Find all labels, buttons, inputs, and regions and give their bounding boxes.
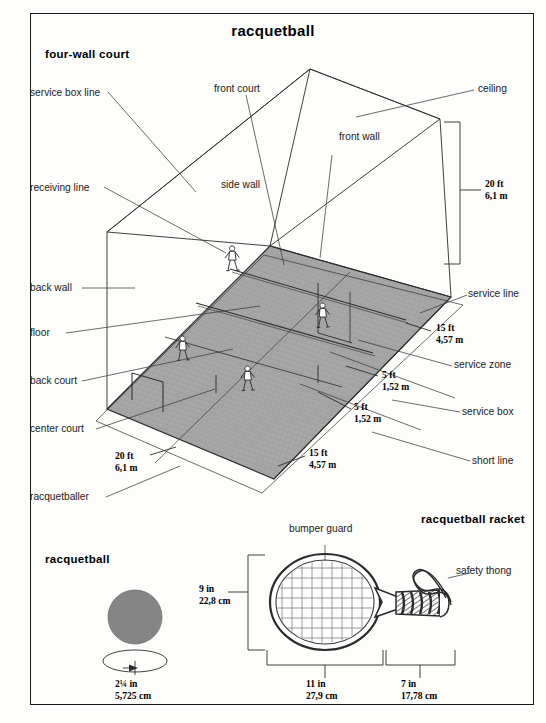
- label-safety-thong: safety thong: [456, 566, 512, 577]
- dimension-racket-grip-length: 7 in17,78 cm: [401, 678, 437, 701]
- diagram-page: racquetball four-wall court racquetball …: [0, 0, 546, 723]
- dimension-racket-head-height: 9 in22,8 cm: [199, 583, 230, 606]
- racket-length-brackets: [267, 650, 455, 678]
- racket-head-inner: [276, 560, 374, 644]
- label-bumper-guard: bumper guard: [289, 524, 352, 535]
- racket-height-bracket: [228, 555, 265, 650]
- dimension-racket-head-length: 11 in27,9 cm: [306, 678, 337, 701]
- racquetball-racket-illustration: [0, 0, 546, 723]
